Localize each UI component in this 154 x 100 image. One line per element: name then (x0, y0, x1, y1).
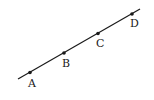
point-a (28, 71, 32, 75)
line (18, 9, 140, 79)
points-group: ABCD (27, 12, 139, 90)
point-c (96, 32, 100, 36)
point-d (130, 12, 134, 16)
point-b (62, 51, 66, 55)
point-label-b: B (62, 57, 70, 70)
point-label-c: C (96, 37, 104, 50)
point-label-d: D (130, 17, 139, 30)
diagram-canvas: ABCD (0, 0, 154, 100)
point-label-a: A (27, 77, 37, 90)
